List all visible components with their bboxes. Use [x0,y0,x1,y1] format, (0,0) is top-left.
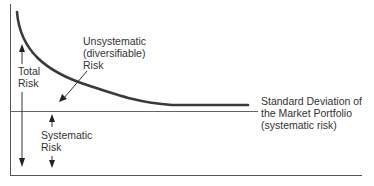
total-risk-arrowhead-down [19,158,25,167]
market-sd-line-2: the Market Portfolio [261,107,362,119]
market-sd-label: Standard Deviation ofthe Market Portfoli… [261,95,362,131]
unsystematic-line-1: Unsystematic [83,35,146,47]
systematic-line-2: Risk [41,141,92,153]
unsystematic-risk-label: Unsystematic(diversifiable)Risk [83,35,146,71]
total-risk-label: TotalRisk [18,65,40,89]
total-risk-arrowhead-up [19,44,25,52]
systematic-arrowhead-down [49,160,55,168]
risk-diagram [0,0,374,186]
market-sd-line-3: (systematic risk) [261,119,362,131]
unsystematic-line-3: Risk [83,59,146,71]
systematic-risk-label: SystematicRisk [41,129,92,153]
market-sd-line-1: Standard Deviation of [261,95,362,107]
unsystematic-line-2: (diversifiable) [83,47,146,59]
total-line-2: Risk [18,77,40,89]
total-line-1: Total [18,65,40,77]
systematic-arrowhead-up [49,114,55,122]
systematic-line-1: Systematic [41,129,92,141]
